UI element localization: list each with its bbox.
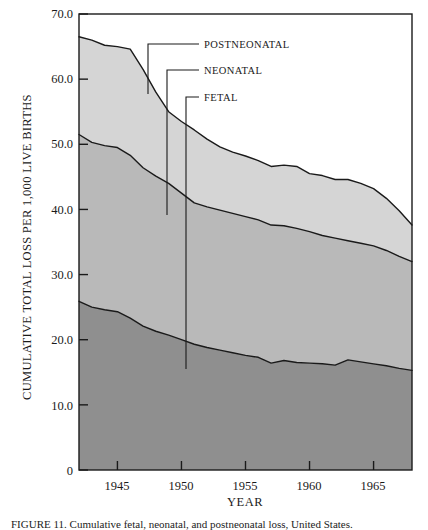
y-tick-label-70: 70.0: [51, 7, 73, 21]
x-tick-label-1965: 1965: [361, 479, 386, 493]
series-label-neonatal: NEONATAL: [204, 65, 262, 76]
x-tick-label-1960: 1960: [297, 479, 322, 493]
y-tick-label-40: 40.0: [51, 203, 73, 217]
y-tick-label-60: 60.0: [51, 72, 73, 86]
y-tick-label-20: 20.0: [51, 333, 73, 347]
y-tick-label-10: 10.0: [51, 399, 73, 413]
x-tick-label-1955: 1955: [233, 479, 258, 493]
y-tick-label-30: 30.0: [51, 268, 73, 282]
x-tick-label-1945: 1945: [105, 479, 130, 493]
y-tick-label-50: 50.0: [51, 137, 73, 151]
figure-caption: FIGURE 11. Cumulative fetal, neonatal, a…: [11, 518, 353, 530]
series-label-fetal: FETAL: [204, 92, 238, 103]
series-label-postneonatal: POSTNEONATAL: [204, 39, 290, 50]
x-tick-label-1950: 1950: [169, 479, 194, 493]
y-tick-label-0: 0: [67, 464, 73, 478]
x-axis-title: YEAR: [227, 495, 263, 509]
